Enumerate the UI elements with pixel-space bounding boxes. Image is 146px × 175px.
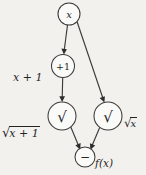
node-x[interactable]: x — [58, 3, 80, 25]
label-f-of-x: f(x) — [95, 158, 113, 169]
radicand-text: x + 1 — [9, 126, 40, 139]
node-sqrt-right[interactable]: √ — [94, 102, 122, 130]
edge-sqrt-left-to-minus — [71, 127, 81, 150]
node-minus-label: − — [80, 150, 90, 164]
label-sqrt-x-plus-1: √x + 1 — [2, 126, 40, 139]
node-sqrt-left[interactable]: √ — [48, 102, 76, 130]
node-x-label: x — [66, 9, 72, 20]
computation-graph-diagram: x +1 √ √ − x + 1 √x + 1 √x — [0, 0, 146, 175]
edge-plus1-to-sqrt-left — [59, 78, 65, 102]
node-plus-one[interactable]: +1 — [52, 55, 75, 78]
edge-x-to-plus1 — [61, 25, 67, 55]
edge-sqrt-right-to-minus — [90, 127, 100, 150]
radicand-text: x — [130, 117, 137, 129]
radical-group: √x — [124, 117, 137, 130]
label-x-plus-1: x + 1 — [13, 72, 42, 83]
node-minus[interactable]: − — [75, 147, 95, 167]
radical-group: √x + 1 — [2, 126, 40, 139]
node-sqrt-right-label: √ — [103, 108, 113, 126]
graph-canvas: x +1 √ √ − — [0, 0, 146, 175]
node-plus-one-label: +1 — [56, 61, 70, 72]
label-sqrt-x: √x — [124, 117, 137, 130]
edge-x-to-sqrt-right — [77, 22, 105, 103]
node-sqrt-left-label: √ — [57, 108, 67, 126]
